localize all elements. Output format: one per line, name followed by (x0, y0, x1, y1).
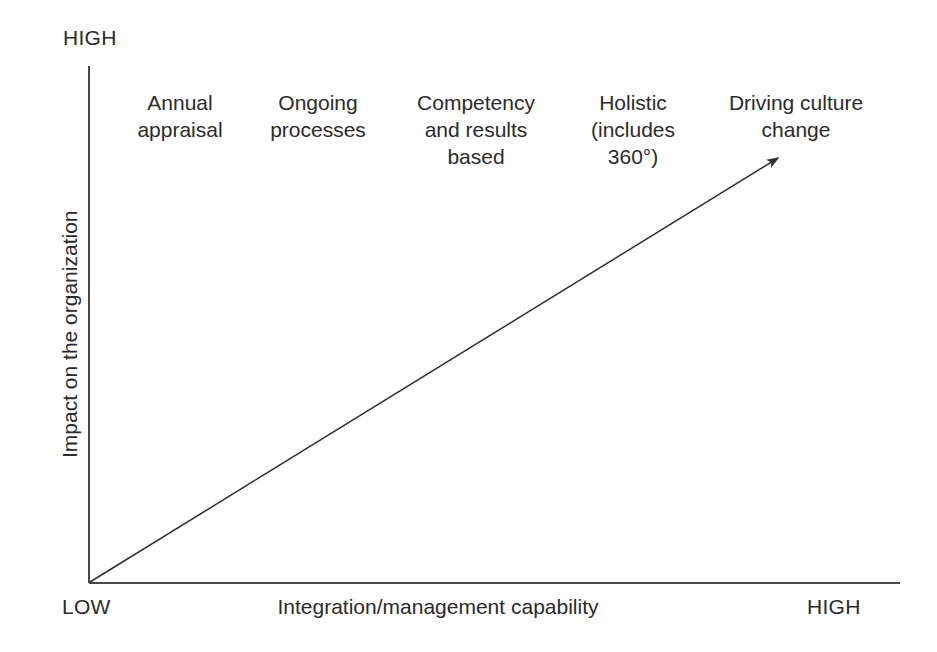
y-axis-high-label: HIGH (63, 26, 117, 50)
diagram-canvas: HIGH Impact on the organization Annual a… (0, 0, 937, 652)
stage-label-driving-culture-change: Driving culture change (691, 89, 901, 143)
trend-arrow (90, 158, 778, 582)
y-axis-title: Impact on the organization (58, 211, 82, 459)
x-axis-title: Integration/management capability (277, 595, 598, 619)
x-axis-low-label: LOW (62, 595, 111, 619)
x-axis-high-label: HIGH (807, 595, 861, 619)
